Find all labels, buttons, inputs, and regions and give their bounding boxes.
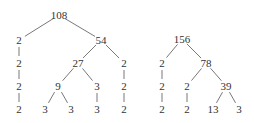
tree-node: 39 xyxy=(221,81,232,92)
tree-node: 3 xyxy=(236,104,242,115)
tree-node: 3 xyxy=(42,104,48,115)
tree-edge xyxy=(48,92,54,103)
tree-node: 54 xyxy=(96,35,107,46)
tree-node: 108 xyxy=(51,10,68,21)
tree-node: 9 xyxy=(55,81,61,92)
tree-edge xyxy=(82,68,92,80)
tree-node: 27 xyxy=(73,58,84,69)
tree-node: 2 xyxy=(159,104,165,115)
tree-edge xyxy=(106,45,119,58)
tree-node: 3 xyxy=(68,104,74,115)
tree-node: 2 xyxy=(16,104,22,115)
tree-node: 2 xyxy=(121,81,127,92)
tree-node: 2 xyxy=(16,35,22,46)
tree-node: 2 xyxy=(184,104,190,115)
tree-edge xyxy=(229,92,235,103)
tree-node: 2 xyxy=(184,81,190,92)
tree-node: 3 xyxy=(94,81,100,92)
tree-node: 2 xyxy=(121,104,127,115)
tree-node: 3 xyxy=(94,104,100,115)
tree-edge xyxy=(216,92,222,103)
tree-node: 2 xyxy=(16,58,22,69)
tree-edge xyxy=(83,45,96,58)
tree-node: 2 xyxy=(159,81,165,92)
tree-node: 13 xyxy=(208,104,219,115)
tree-node: 2 xyxy=(16,81,22,92)
tree-node: 156 xyxy=(174,34,191,45)
tree-edge xyxy=(187,44,201,58)
tree-edge xyxy=(191,68,201,80)
tree-edge xyxy=(63,68,74,80)
tree-edge xyxy=(25,19,53,37)
tree-node: 78 xyxy=(201,58,212,69)
tree-edge xyxy=(61,92,67,103)
tree-edge xyxy=(65,19,95,37)
tree-node: 2 xyxy=(159,58,165,69)
tree-node: 2 xyxy=(121,58,127,69)
tree-edge xyxy=(166,44,177,57)
